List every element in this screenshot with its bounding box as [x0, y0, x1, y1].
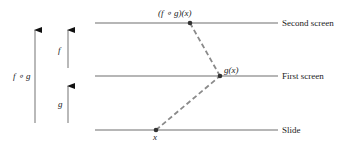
f-label: f	[58, 45, 62, 55]
dashed-path-x-to-gx	[156, 76, 220, 130]
slide-label: Slide	[282, 125, 301, 135]
g-label: g	[58, 99, 63, 109]
dashed-path-gx-to-fgx	[190, 23, 220, 76]
point-x-label: x	[152, 132, 157, 142]
point-g-of-x-label: g(x)	[224, 65, 239, 75]
point-f-compose-g-of-x-label: (f ∘ g)(x)	[158, 8, 191, 18]
point-g-of-x	[218, 74, 223, 79]
point-f-compose-g-of-x	[188, 21, 193, 26]
composition-diagram: Second screen First screen Slide x g(x) …	[0, 0, 345, 146]
second-screen-label: Second screen	[282, 18, 334, 28]
f-compose-g-label: f ∘ g	[13, 71, 31, 81]
first-screen-label: First screen	[282, 71, 324, 81]
